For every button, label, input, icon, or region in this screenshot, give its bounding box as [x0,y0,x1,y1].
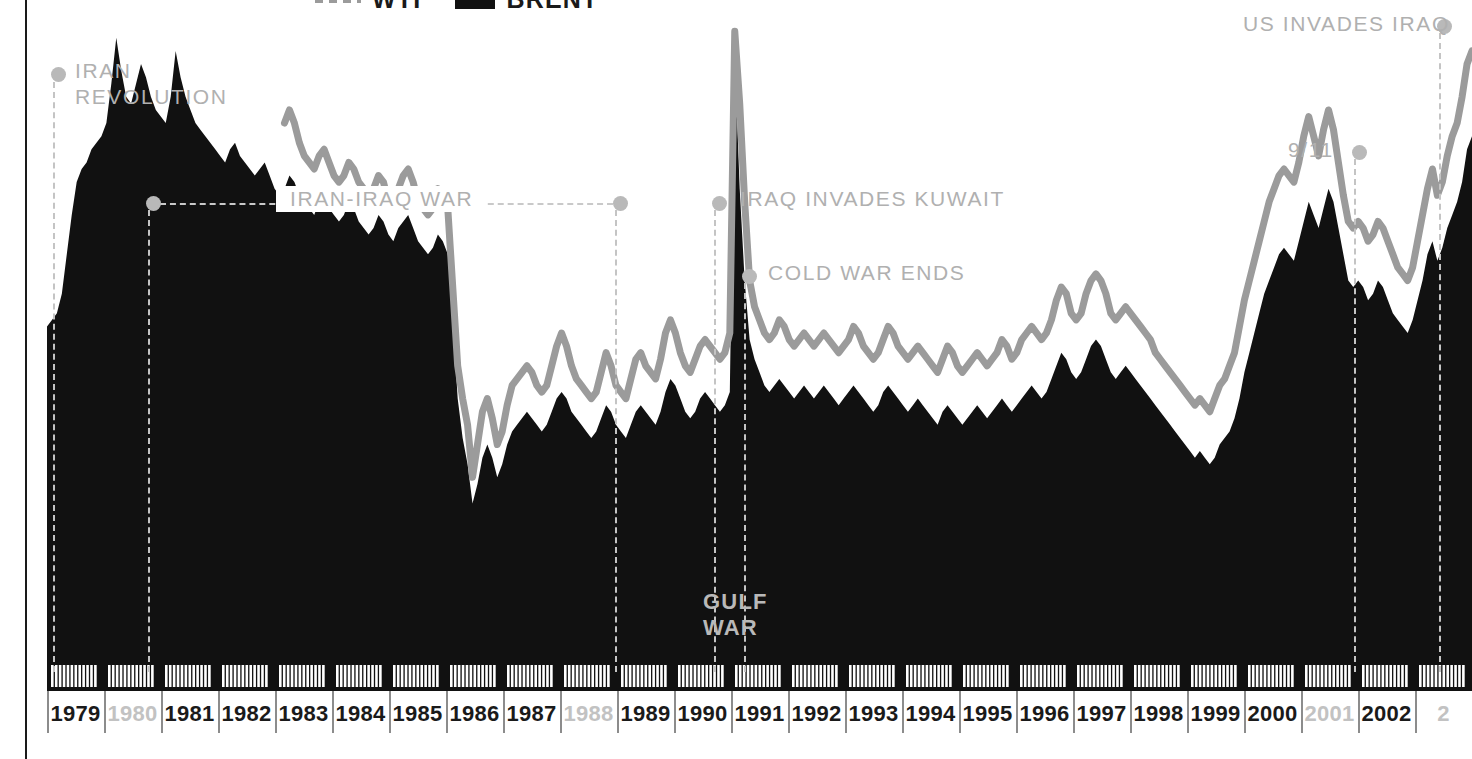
x-axis-label-2000: 2000 [1244,701,1301,727]
x-axis-label-1980: 1980 [104,701,161,727]
legend-item-brent[interactable]: BRENT [455,0,598,14]
legend-item-wti[interactable]: WTI [315,0,421,14]
chart-left-frame-rule [25,0,27,759]
x-axis-label-2002: 2002 [1358,701,1415,727]
x-axis-label-1986: 1986 [446,701,503,727]
x-axis-label-1982: 1982 [218,701,275,727]
x-axis-label-1991: 1991 [731,701,788,727]
x-axis-label-1985: 1985 [389,701,446,727]
x-axis-label-1988: 1988 [560,701,617,727]
x-axis-label-1995: 1995 [959,701,1016,727]
x-axis-label-1992: 1992 [788,701,845,727]
x-axis-label-1998: 1998 [1130,701,1187,727]
chart-series-svg [47,0,1472,661]
chart-plot-area [47,0,1472,661]
x-axis-label-1984: 1984 [332,701,389,727]
brent-area-path [47,38,1472,661]
x-axis-label-2: 2 [1415,701,1472,727]
x-axis-label-1987: 1987 [503,701,560,727]
legend-label-wti: WTI [372,0,421,14]
brent-legend-swatch-icon [455,0,495,9]
x-axis-label-1981: 1981 [161,701,218,727]
x-axis-label-1983: 1983 [275,701,332,727]
x-axis-label-1997: 1997 [1073,701,1130,727]
x-axis-label-1999: 1999 [1187,701,1244,727]
x-axis-label-1979: 1979 [47,701,104,727]
x-axis-label-1993: 1993 [845,701,902,727]
x-axis-label-1989: 1989 [617,701,674,727]
x-axis-label-2001: 2001 [1301,701,1358,727]
legend-label-brent: BRENT [506,0,598,14]
wti-legend-swatch-icon [315,0,361,3]
oil-price-chart: WTI BRENT IRAN REVOLUTIONIRAN-IRAQ WARIR… [0,0,1472,759]
x-axis-label-1996: 1996 [1016,701,1073,727]
x-axis-label-1994: 1994 [902,701,959,727]
x-axis-year-labels: 1979198019811982198319841985198619871988… [47,691,1472,737]
chart-legend: WTI BRENT [315,0,599,12]
x-axis-label-1990: 1990 [674,701,731,727]
monthly-tick-strip [47,661,1472,691]
